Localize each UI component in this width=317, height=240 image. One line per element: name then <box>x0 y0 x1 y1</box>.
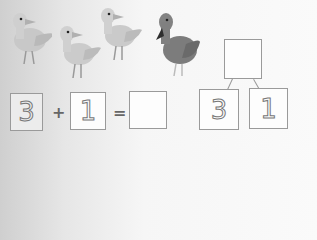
addend1-box[interactable]: 3 <box>10 93 43 131</box>
addend2-box[interactable]: 1 <box>70 92 106 130</box>
bond-whole-box[interactable] <box>224 39 262 79</box>
sum-answer-box[interactable] <box>129 91 167 129</box>
bond-part1-box[interactable]: 3 <box>199 89 239 130</box>
bond-part2-box[interactable]: 1 <box>249 88 288 129</box>
plus-sign: + <box>52 103 65 122</box>
bond-part1-traced-digit: 3 <box>200 90 238 129</box>
light-duck-2 <box>55 20 101 82</box>
dark-duck <box>152 10 202 80</box>
bond-whole-value <box>225 40 261 78</box>
addend1-traced-digit: 3 <box>11 94 42 130</box>
sum-answer <box>130 92 166 128</box>
addend2-traced-digit: 1 <box>71 93 105 129</box>
light-duck-3 <box>96 4 142 66</box>
light-duck-1 <box>6 6 52 68</box>
bond-part2-traced-digit: 1 <box>250 89 287 128</box>
equals-sign: = <box>113 103 126 122</box>
